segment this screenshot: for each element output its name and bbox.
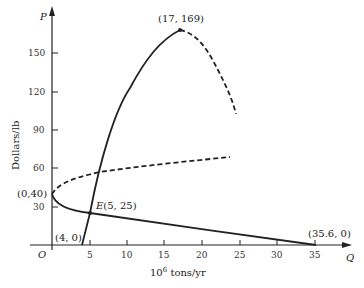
y-tick-90: 90: [33, 125, 45, 135]
x-tick-15: 15: [158, 250, 170, 260]
x-axis-arrow-icon: [342, 242, 352, 248]
supply-curve-solid: [82, 30, 180, 245]
supply-x-intercept-label: (4, 0): [55, 232, 82, 243]
x-tick-25: 25: [234, 250, 246, 260]
equilibrium-label: E(5, 25): [95, 200, 137, 211]
y-axis-arrow-icon: [49, 6, 55, 16]
x-axis-title: 106 tons/yr: [150, 266, 206, 278]
x-tick-10: 10: [121, 250, 133, 260]
peak-label: (17, 169): [158, 13, 204, 24]
y-axis-title: Dollars/lb: [10, 121, 21, 170]
x-tick-5: 5: [87, 250, 93, 260]
y-tick-30: 30: [33, 202, 45, 212]
origin-label: O: [38, 249, 46, 260]
x-tick-35: 35: [309, 250, 321, 260]
x-axis-symbol: Q: [346, 252, 354, 263]
y-tick-150: 150: [28, 48, 45, 58]
chart-canvas: 150 120 90 60 30 5 10 15 20 25 30 35 P Q…: [0, 0, 364, 288]
x-tick-20: 20: [196, 250, 208, 260]
demand-x-intercept-label: (35.6, 0): [308, 228, 351, 239]
equilibrium-point: [88, 211, 92, 215]
peak-point: [178, 28, 182, 32]
demand-curve-dashed: [52, 157, 230, 194]
y-axis-symbol: P: [39, 11, 47, 22]
x-tick-30: 30: [271, 250, 283, 260]
y-ticks: [52, 53, 58, 207]
y-tick-60: 60: [33, 163, 45, 173]
y-intercept-label: (0,40): [17, 188, 47, 199]
supply-curve-dashed: [180, 30, 236, 114]
y-tick-120: 120: [28, 87, 45, 97]
